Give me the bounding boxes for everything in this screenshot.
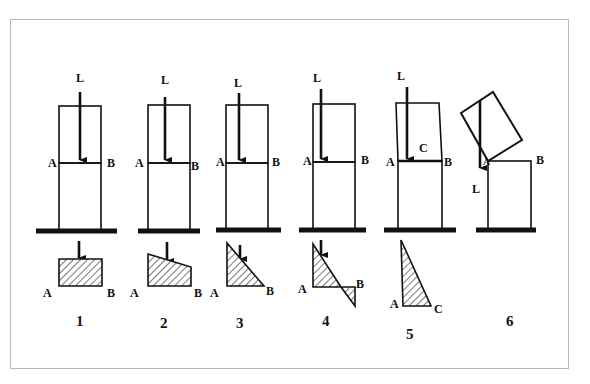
stress-label-b: B <box>194 286 202 300</box>
joint-label-b: B <box>361 153 369 167</box>
panel-number: 3 <box>236 315 244 331</box>
stress-diagram-compression <box>313 244 341 287</box>
load-label: L <box>76 71 84 85</box>
load-label: L <box>397 69 405 83</box>
panel-number: 1 <box>76 313 84 329</box>
stress-diagram-trapezoid <box>148 254 191 286</box>
stress-label-c: C <box>434 302 443 316</box>
lower-block <box>398 161 442 230</box>
joint-label-a: A <box>216 155 225 169</box>
stress-diagram-rectangle <box>59 259 102 286</box>
load-label-below: L <box>472 182 480 196</box>
joint-label-b: B <box>191 159 199 173</box>
load-label: L <box>161 73 169 87</box>
upper-block <box>226 105 268 163</box>
overturning-block <box>461 92 522 161</box>
panel-number: 4 <box>322 313 330 329</box>
load-label: L <box>313 71 321 85</box>
panel-number: 5 <box>406 326 414 342</box>
crack-label-c: C <box>419 141 428 155</box>
joint-label-a: A <box>135 156 144 170</box>
stress-label-a: A <box>210 286 219 300</box>
lower-block <box>59 163 101 231</box>
panel-number: 6 <box>506 313 514 329</box>
upper-block <box>313 104 355 162</box>
joint-label-b: B <box>107 156 115 170</box>
panel-1: L A B A B 1 <box>36 71 117 329</box>
stress-label-a: A <box>130 286 139 300</box>
load-label: L <box>234 76 242 90</box>
panel-5: L C A B A C 5 <box>384 69 456 342</box>
stress-label-b: B <box>107 286 115 300</box>
stress-label-a: A <box>298 282 307 296</box>
joint-label-a: A <box>386 155 395 169</box>
joint-label-a: A <box>303 154 312 168</box>
lower-block <box>313 162 355 230</box>
lower-block <box>148 163 190 231</box>
stress-diagram-tension <box>341 287 355 306</box>
joint-label-b: B <box>536 153 544 167</box>
panel-2: L A B A B 2 <box>130 73 202 331</box>
masonry-stability-diagram: L A B A B 1 L A B A B 2 L A B <box>0 0 590 384</box>
stress-label-b: B <box>266 284 274 298</box>
stress-label-a: A <box>390 297 399 311</box>
panel-3: L A B A B 3 <box>210 76 281 331</box>
panel-number: 2 <box>160 315 168 331</box>
stress-diagram-narrow-triangle <box>401 240 431 306</box>
joint-label-a: A <box>483 156 491 167</box>
panel-6: A B L 6 <box>461 92 544 329</box>
lower-block <box>488 161 531 230</box>
joint-label-b: B <box>272 155 280 169</box>
stress-label-b: B <box>356 277 364 291</box>
panel-4: L A B A B 4 <box>298 71 369 329</box>
joint-label-a: A <box>48 156 57 170</box>
stress-label-a: A <box>43 286 52 300</box>
joint-label-b: B <box>444 155 452 169</box>
stress-diagram-triangle <box>227 243 264 286</box>
upper-block <box>148 105 190 163</box>
lower-block <box>226 163 268 231</box>
